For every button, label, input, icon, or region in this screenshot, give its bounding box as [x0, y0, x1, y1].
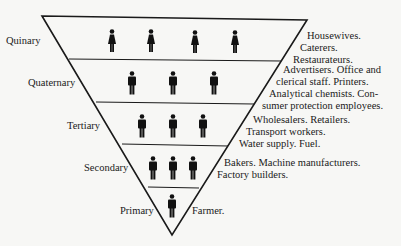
- divider-tertiary-secondary: [122, 144, 228, 146]
- male-icon: [168, 114, 178, 138]
- examples-quinary: Housewives. Caterers. Restaurateurs.: [307, 30, 361, 66]
- divider-secondary-primary: [148, 187, 199, 188]
- female-icon: [107, 29, 117, 53]
- divider-quinary-quaternary: [69, 59, 281, 61]
- sector-label-quinary: Quinary: [6, 35, 40, 47]
- examples-secondary: Bakers. Machine manufacturers. Factory b…: [224, 157, 360, 181]
- male-icon: [168, 71, 178, 95]
- examples-quaternary: Advertisers. Office and clerical staff. …: [283, 64, 383, 112]
- examples-tertiary: Wholesalers. Retailers. Transport worker…: [253, 114, 350, 150]
- male-icon: [198, 114, 208, 138]
- male-icon: [188, 156, 198, 180]
- female-icon: [230, 30, 240, 54]
- male-icon: [127, 71, 137, 95]
- sector-label-secondary: Secondary: [84, 162, 128, 174]
- female-icon: [146, 29, 156, 53]
- sector-label-quaternary: Quaternary: [28, 77, 75, 89]
- male-icon: [137, 114, 147, 138]
- economic-sectors-diagram: Quinary Quaternary Tertiary Secondary Pr…: [0, 0, 401, 246]
- sector-label-primary: Primary: [120, 205, 154, 217]
- female-icon: [190, 30, 200, 54]
- male-icon: [167, 194, 177, 218]
- sector-label-tertiary: Tertiary: [67, 120, 100, 132]
- examples-primary: Farmer.: [192, 205, 224, 217]
- male-icon: [168, 156, 178, 180]
- divider-quaternary-tertiary: [96, 102, 254, 104]
- male-icon: [209, 71, 219, 95]
- male-icon: [148, 156, 158, 180]
